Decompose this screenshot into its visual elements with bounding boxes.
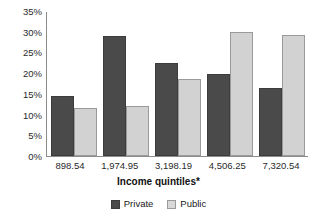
legend-item-label: Public bbox=[180, 199, 206, 209]
bar-chart: 35%30%25%20%15%10%5%0% 898.541,974.953,1… bbox=[0, 0, 317, 223]
bar-public bbox=[178, 79, 201, 156]
y-axis-tick-label: 15% bbox=[0, 90, 42, 100]
y-axis-tick-label: 5% bbox=[0, 131, 42, 141]
bar-public bbox=[126, 106, 149, 156]
legend-item-label: Private bbox=[124, 199, 154, 209]
bar-group bbox=[155, 12, 201, 156]
bar-public bbox=[282, 35, 305, 156]
x-axis-tick-label: 4,506.25 bbox=[209, 160, 246, 171]
chart-legend: PrivatePublic bbox=[0, 199, 317, 209]
y-axis-tick-label: 25% bbox=[0, 48, 42, 58]
y-axis-tick-label: 20% bbox=[0, 69, 42, 79]
x-axis-tick-label: 898.54 bbox=[55, 160, 84, 171]
bar-group bbox=[51, 12, 97, 156]
legend-swatch-icon bbox=[111, 200, 120, 209]
y-axis-tick-label: 0% bbox=[0, 152, 42, 162]
bar-private bbox=[259, 88, 282, 156]
y-axis: 35%30%25%20%15%10%5%0% bbox=[0, 12, 42, 157]
bar-group bbox=[207, 12, 253, 156]
x-axis-tick-label: 3,198.19 bbox=[155, 160, 192, 171]
y-axis-tick-label: 30% bbox=[0, 28, 42, 38]
x-axis: 898.541,974.953,198.194,506.257,320.54 bbox=[47, 160, 308, 171]
x-axis-tick-label: 1,974.95 bbox=[101, 160, 138, 171]
x-axis-title: Income quintiles* bbox=[0, 176, 317, 187]
legend-item-public[interactable]: Public bbox=[167, 199, 206, 209]
bar-private bbox=[51, 96, 74, 156]
y-axis-tick-label: 10% bbox=[0, 111, 42, 121]
x-axis-tick-label: 7,320.54 bbox=[263, 160, 300, 171]
bar-group bbox=[259, 12, 305, 156]
bar-private bbox=[103, 36, 126, 156]
bar-private bbox=[207, 74, 230, 156]
legend-swatch-icon bbox=[167, 200, 176, 209]
plot-area bbox=[46, 12, 308, 157]
legend-item-private[interactable]: Private bbox=[111, 199, 154, 209]
bar-groups bbox=[48, 12, 308, 156]
bar-private bbox=[155, 63, 178, 156]
y-axis-tick-label: 35% bbox=[0, 7, 42, 17]
bar-group bbox=[103, 12, 149, 156]
bar-public bbox=[230, 32, 253, 156]
bar-public bbox=[74, 108, 97, 156]
